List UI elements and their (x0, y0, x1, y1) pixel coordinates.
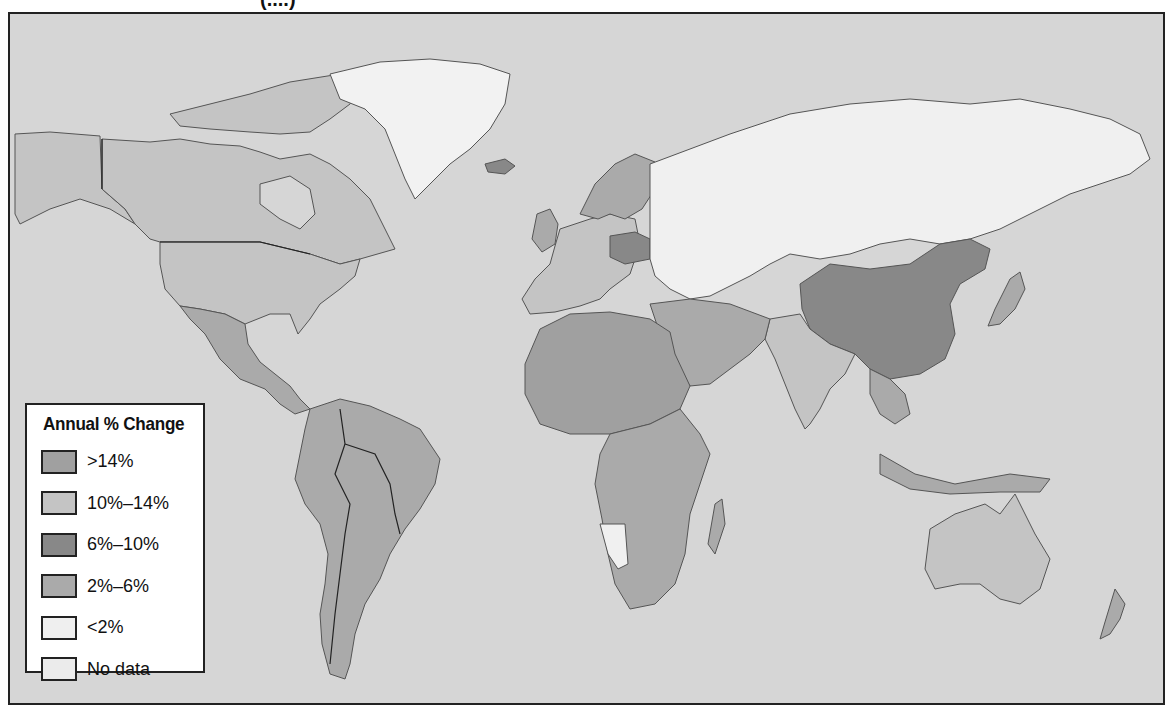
region-indonesia[interactable] (880, 454, 1050, 494)
map-title-fragment: (....) (260, 0, 296, 11)
legend-item: >14% (41, 441, 203, 483)
legend-item: 2%–6% (41, 566, 203, 608)
region-poland[interactable] (610, 232, 650, 264)
legend-label: 2%–6% (87, 576, 149, 597)
region-new-zealand[interactable] (1100, 589, 1125, 639)
region-north-africa[interactable] (525, 312, 690, 434)
legend-title: Annual % Change (43, 413, 187, 435)
legend-label: >14% (87, 451, 134, 472)
region-iceland[interactable] (485, 159, 515, 174)
legend-label: No data (87, 659, 150, 680)
region-scandinavia[interactable] (580, 154, 655, 219)
legend-swatch (41, 657, 77, 681)
legend-item: No data (41, 649, 203, 691)
legend-swatch (41, 491, 77, 515)
legend-item: 6%–10% (41, 524, 203, 566)
region-south-america[interactable] (295, 399, 440, 679)
region-central-africa[interactable] (595, 409, 710, 609)
legend-label: 6%–10% (87, 534, 159, 555)
legend: Annual % Change >14% 10%–14% 6%–10% 2%–6… (25, 403, 205, 673)
region-japan[interactable] (988, 272, 1025, 326)
legend-swatch (41, 533, 77, 557)
legend-label: <2% (87, 617, 124, 638)
region-australia[interactable] (925, 494, 1050, 604)
region-namibia[interactable] (600, 524, 628, 569)
legend-item: <2% (41, 607, 203, 649)
legend-swatch (41, 616, 77, 640)
region-madagascar[interactable] (708, 499, 725, 554)
region-united-kingdom[interactable] (532, 209, 558, 252)
legend-swatch (41, 450, 77, 474)
region-greenland[interactable] (330, 59, 510, 199)
legend-swatch (41, 574, 77, 598)
legend-label: 10%–14% (87, 493, 169, 514)
legend-item: 10%–14% (41, 483, 203, 525)
